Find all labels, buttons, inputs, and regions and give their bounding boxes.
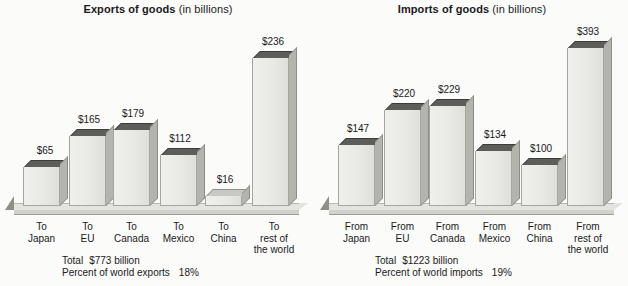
imports-plot-area: $147 $220 $229 $134 (316, 0, 628, 220)
xtick-line-3: the world (568, 244, 609, 255)
bar-imports-eu (384, 103, 421, 206)
xtick-line-1: From (483, 221, 506, 232)
value-label-imports-eu: $220 (381, 88, 427, 99)
exports-percent-label: Percent of world exports (62, 267, 170, 278)
bar-exports-mexico (160, 148, 197, 206)
platform-front-surface (14, 210, 299, 215)
xtick-line-2: Japan (28, 233, 55, 244)
xtick-line-2: Canada (114, 233, 149, 244)
xtick-line-2: Mexico (479, 233, 511, 244)
xtick-exports-eu: To EU (64, 221, 111, 244)
platform-left-cap (5, 196, 14, 210)
bar-front-face (113, 130, 150, 206)
xtick-line-2: China (526, 233, 552, 244)
bar-imports-rest-of-world (567, 41, 604, 206)
xtick-exports-mexico: To Mexico (155, 221, 202, 244)
imports-total-value: $1223 billion (402, 255, 458, 266)
xtick-line-1: To (126, 221, 137, 232)
bar-front-face (475, 151, 512, 206)
imports-percent-row: Percent of world imports19% (375, 267, 512, 279)
bar-imports-canada (429, 99, 466, 206)
bar-front-face (521, 165, 558, 206)
xtick-line-3: the world (254, 244, 295, 255)
xtick-imports-china: From China (515, 221, 564, 244)
bar-front-face (567, 48, 604, 206)
bar-side-face (375, 134, 383, 206)
imports-total-label: Total (375, 255, 396, 266)
xtick-line-2: Japan (343, 233, 370, 244)
value-label-exports-eu: $165 (66, 114, 112, 125)
platform-right-cap (299, 203, 308, 210)
platform-right-cap (614, 203, 623, 210)
value-label-imports-canada: $229 (426, 84, 472, 95)
xtick-imports-canada: From Canada (422, 221, 473, 244)
xtick-line-2: EU (396, 233, 410, 244)
bar-exports-rest-of-world (252, 51, 289, 206)
imports-percent-value: 19% (492, 267, 512, 278)
bar-side-face (421, 99, 429, 206)
imports-percent-label: Percent of world imports (375, 267, 483, 278)
bar-front-face (23, 167, 60, 206)
bar-imports-mexico (475, 144, 512, 206)
xtick-exports-canada: To Canada (108, 221, 155, 244)
bar-side-face (604, 37, 612, 206)
xtick-line-1: From (391, 221, 414, 232)
bar-front-face (252, 58, 289, 206)
value-label-imports-china: $100 (518, 143, 564, 154)
xtick-imports-japan: From Japan (332, 221, 381, 244)
xtick-imports-eu: From EU (378, 221, 427, 244)
bar-front-face (205, 196, 242, 206)
bar-exports-japan (23, 160, 60, 206)
bar-front-face (429, 106, 466, 206)
bar-side-face (558, 154, 566, 206)
xtick-line-2: rest of (574, 233, 602, 244)
bar-front-face (338, 145, 375, 206)
value-label-exports-rest-of-world: $236 (250, 36, 296, 47)
bar-imports-china (521, 158, 558, 206)
exports-percent-value: 18% (179, 267, 199, 278)
xtick-exports-japan: To Japan (18, 221, 65, 244)
exports-percent-row: Percent of world exports18% (62, 267, 199, 279)
bar-front-face (160, 155, 197, 206)
imports-total-row: Total$1223 billion (375, 255, 512, 267)
xtick-line-1: To (173, 221, 184, 232)
value-label-imports-rest-of-world: $393 (565, 26, 611, 37)
bar-imports-japan (338, 138, 375, 206)
value-label-exports-china: $16 (202, 174, 248, 185)
bar-front-face (69, 136, 106, 206)
xtick-line-1: To (269, 221, 280, 232)
exports-total-label: Total (62, 255, 83, 266)
xtick-exports-china: To China (200, 221, 247, 244)
value-label-exports-canada: $179 (110, 108, 156, 119)
platform-front-surface (329, 210, 614, 215)
bar-front-face (384, 110, 421, 206)
xtick-line-1: From (528, 221, 551, 232)
xtick-line-1: To (218, 221, 229, 232)
xtick-line-2: EU (81, 233, 95, 244)
imports-panel: Imports of goods (in billions) $147 (316, 0, 628, 286)
bar-side-face (60, 156, 68, 206)
chart-page: Exports of goods (in billions) $65 (0, 0, 628, 286)
xtick-line-1: To (82, 221, 93, 232)
bar-exports-canada (113, 123, 150, 206)
xtick-line-2: Mexico (163, 233, 195, 244)
value-label-exports-mexico: $112 (157, 133, 203, 144)
value-label-imports-japan: $147 (335, 123, 381, 134)
value-label-imports-mexico: $134 (472, 129, 518, 140)
xtick-line-1: From (436, 221, 459, 232)
platform-left-cap (320, 196, 329, 210)
xtick-line-2: Canada (430, 233, 465, 244)
bar-exports-eu (69, 129, 106, 206)
xtick-line-2: China (210, 233, 236, 244)
value-label-exports-japan: $65 (22, 145, 68, 156)
bar-side-face (289, 47, 297, 206)
bar-exports-china (205, 189, 242, 206)
exports-summary: Total$773 billion Percent of world expor… (62, 255, 199, 279)
xtick-exports-rest-of-world: To rest of the world (245, 221, 303, 256)
xtick-line-1: From (345, 221, 368, 232)
xtick-imports-rest-of-world: From rest of the world (559, 221, 617, 256)
xtick-line-2: rest of (260, 233, 288, 244)
exports-total-row: Total$773 billion (62, 255, 199, 267)
xtick-imports-mexico: From Mexico (469, 221, 520, 244)
xtick-line-1: To (36, 221, 47, 232)
